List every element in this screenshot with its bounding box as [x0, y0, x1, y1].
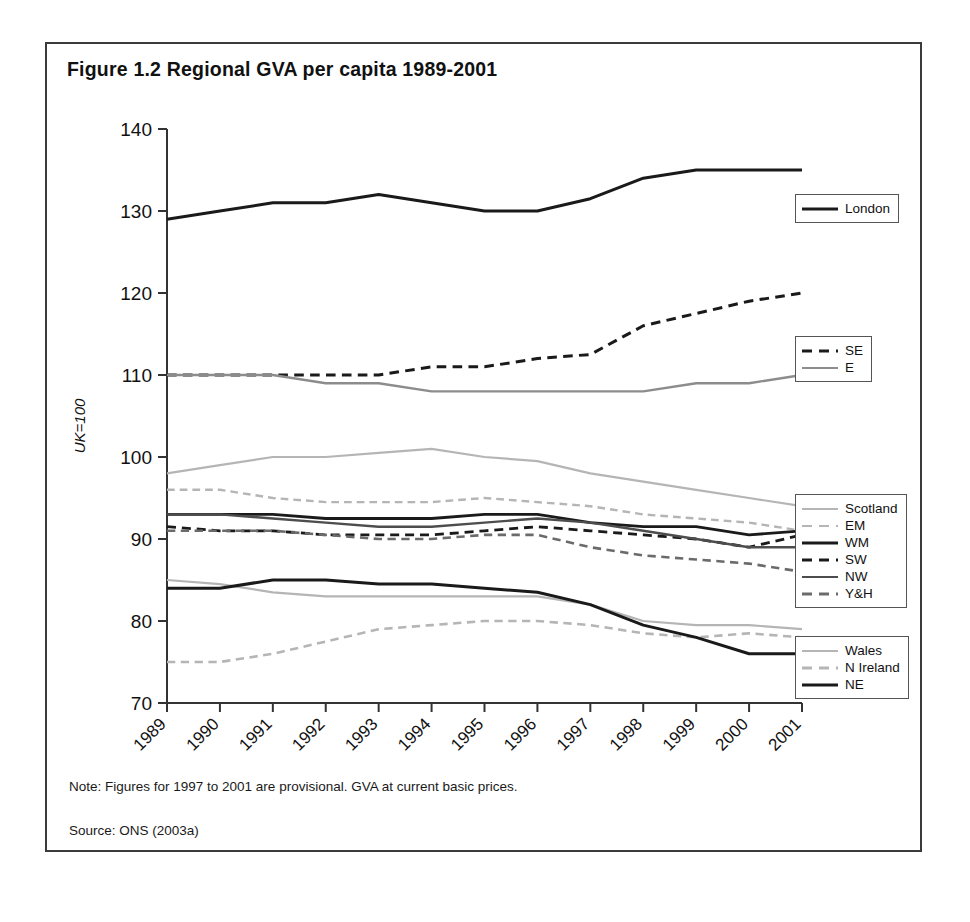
series-line-london [167, 170, 802, 219]
x-tick-label: 1997 [553, 714, 593, 754]
legend-item-wales: Wales [802, 642, 900, 659]
legend-line-swatch-icon [802, 520, 838, 532]
series-line-e [167, 375, 802, 391]
legend-line-swatch-icon [802, 662, 838, 674]
legend-line-swatch-icon [802, 345, 838, 357]
legend-item-se: SE [802, 342, 863, 359]
legend-label: SE [845, 344, 863, 358]
legend-line-swatch-icon [802, 503, 838, 515]
legend-line-swatch-icon [802, 362, 838, 374]
line-chart-svg: 708090100110120130140UK=1001989199019911… [47, 44, 924, 854]
legend-line-swatch-icon [802, 554, 838, 566]
y-tick-label: 110 [122, 365, 152, 386]
legend-line-swatch-icon [802, 537, 838, 549]
legend-label: EM [845, 519, 865, 533]
y-axis-title: UK=100 [71, 398, 88, 453]
series-line-em [167, 490, 802, 531]
legend-label: Scotland [845, 502, 898, 516]
legend-line-swatch-icon [802, 679, 838, 691]
legend-item-n-ireland: N Ireland [802, 659, 900, 676]
x-tick-label: 1998 [606, 714, 646, 754]
x-tick-label: 2001 [765, 714, 805, 754]
legend-label: NE [845, 678, 864, 692]
legend-item-em: EM [802, 517, 898, 534]
x-tick-label: 1995 [447, 714, 487, 754]
y-tick-label: 100 [120, 447, 152, 468]
x-tick-label: 1989 [130, 714, 170, 754]
series-line-y-h [167, 531, 802, 572]
legend-line-swatch-icon [802, 203, 838, 215]
x-tick-label: 1994 [394, 714, 434, 754]
y-tick-label: 70 [131, 693, 152, 714]
y-tick-label: 120 [120, 283, 152, 304]
legend-line-swatch-icon [802, 588, 838, 600]
x-tick-label: 1996 [500, 714, 540, 754]
x-tick-label: 1992 [288, 714, 328, 754]
legend-label: N Ireland [845, 661, 900, 675]
legend-item-nw: NW [802, 568, 898, 585]
legend-label: London [845, 202, 890, 216]
legend-label: SW [845, 553, 867, 567]
legend-label: E [845, 361, 854, 375]
x-tick-label: 2000 [712, 714, 752, 754]
legend-label: Wales [845, 644, 882, 658]
legend-line-swatch-icon [802, 645, 838, 657]
series-line-se [167, 293, 802, 375]
legend-item-sw: SW [802, 551, 898, 568]
legend-item-y-h: Y&H [802, 585, 898, 602]
legend-line-swatch-icon [802, 571, 838, 583]
legend-label: Y&H [845, 587, 873, 601]
legend-item-scotland: Scotland [802, 500, 898, 517]
figure-frame: Figure 1.2 Regional GVA per capita 1989-… [45, 42, 922, 852]
legend-item-e: E [802, 359, 863, 376]
x-tick-label: 1993 [341, 714, 381, 754]
source-text: Source: ONS (2003a) [69, 823, 199, 838]
x-tick-label: 1999 [659, 714, 699, 754]
x-tick-label: 1990 [183, 714, 223, 754]
mid-legend: ScotlandEMWMSWNWY&H [795, 494, 907, 608]
x-tick-label: 1991 [235, 714, 275, 754]
y-tick-label: 140 [120, 119, 152, 140]
legend-item-wm: WM [802, 534, 898, 551]
legend-label: WM [845, 536, 869, 550]
series-line-sw [167, 527, 802, 548]
note-text: Note: Figures for 1997 to 2001 are provi… [69, 779, 517, 794]
y-tick-label: 90 [131, 529, 152, 550]
legend-item-london: London [802, 200, 890, 217]
plot-area: 708090100110120130140UK=1001989199019911… [47, 44, 924, 854]
london-legend: London [795, 194, 899, 223]
y-tick-label: 80 [131, 611, 152, 632]
legend-label: NW [845, 570, 868, 584]
bottom-legend: WalesN IrelandNE [795, 636, 909, 699]
se-e-legend: SEE [795, 336, 872, 382]
y-tick-label: 130 [120, 201, 152, 222]
legend-item-ne: NE [802, 676, 900, 693]
